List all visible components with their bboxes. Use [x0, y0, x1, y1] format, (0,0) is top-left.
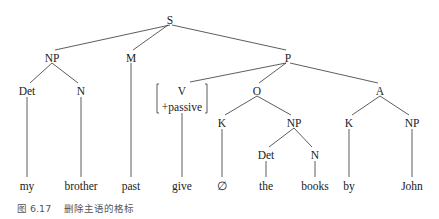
node-V-feature: +passive: [162, 101, 202, 114]
node-NP-object: NP: [287, 117, 302, 129]
node-V: V: [178, 85, 187, 97]
terminal-books: books: [301, 180, 329, 192]
node-Det-subject: Det: [19, 85, 36, 97]
node-K-object: K: [218, 117, 227, 129]
caption-number: 图 6.17: [17, 203, 51, 214]
node-S: S: [167, 14, 173, 26]
terminal-give: give: [172, 180, 192, 193]
node-K-agent: K: [345, 117, 354, 129]
terminal-empty-set: ∅: [217, 180, 227, 192]
node-A: A: [376, 85, 385, 97]
syntax-tree-diagram: S NP M P Det N V +passive O A K NP K NP …: [0, 0, 439, 219]
tree-nodes: S NP M P Det N V +passive O A K NP K NP …: [19, 14, 420, 161]
figure-caption: 图 6.17 删除主语的格标: [17, 203, 134, 214]
terminal-by: by: [343, 180, 355, 193]
node-NP-agent: NP: [405, 117, 420, 129]
node-M: M: [126, 52, 136, 64]
terminal-my: my: [20, 180, 35, 193]
tree-terminals: my brother past give ∅ the books by John: [20, 180, 423, 193]
tree-edges: [27, 25, 412, 177]
caption-text: 删除主语的格标: [64, 203, 134, 214]
node-NP-subject: NP: [45, 52, 60, 64]
node-N-subject: N: [77, 85, 86, 97]
node-N-object: N: [311, 149, 320, 161]
terminal-the: the: [259, 180, 273, 192]
terminal-John: John: [401, 180, 423, 192]
terminal-brother: brother: [64, 180, 97, 192]
node-O: O: [253, 85, 261, 97]
terminal-past: past: [122, 180, 141, 193]
node-P: P: [285, 52, 291, 64]
node-Det-object: Det: [258, 149, 275, 161]
